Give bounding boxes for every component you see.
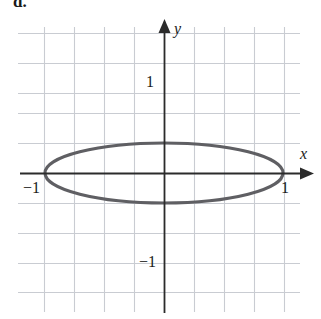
y-axis-label: y	[174, 21, 181, 37]
x-axis-tick-label-negative-one: −1	[23, 180, 40, 196]
horizontal-grid-lines	[18, 34, 300, 293]
y-axis-tick-label-negative-one: −1	[139, 254, 156, 270]
y-axis-tick-label-positive-one: 1	[146, 74, 154, 90]
coordinate-plane-svg	[0, 0, 321, 319]
x-axis-label: x	[300, 146, 307, 162]
graph-figure: d.	[0, 0, 321, 319]
x-axis	[20, 168, 314, 180]
x-axis-tick-label-positive-one: 1	[281, 180, 289, 196]
